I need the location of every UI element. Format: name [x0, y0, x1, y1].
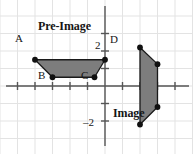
vertex-dot-pre-image-C [92, 74, 98, 80]
vertex-label-b: B [38, 70, 45, 81]
vertex-dot-image-Dprime [137, 122, 143, 128]
vertex-dot-image-Cprime [155, 104, 161, 110]
axes [6, 6, 189, 146]
y-tick-label-2: 2 [95, 40, 101, 51]
vertex-label-a: A [15, 33, 23, 44]
vertex-label-d: D [110, 34, 118, 45]
y-tick-label-minus-2: –2 [83, 117, 94, 128]
image-label: Image [113, 107, 145, 119]
graph-canvas [0, 0, 193, 154]
coordinate-plane-figure: Pre-Image Image A B C D 2 –2 [0, 0, 193, 154]
vertex-dot-pre-image-D [102, 57, 108, 63]
pre-image-label: Pre-Image [38, 20, 91, 32]
vertex-dot-image-Aprime [137, 45, 143, 51]
vertex-dot-image-Bprime [155, 61, 161, 67]
vertex-dot-pre-image-A [32, 57, 38, 63]
vertex-dot-pre-image-B [50, 74, 56, 80]
vertex-label-c: C [81, 70, 88, 81]
